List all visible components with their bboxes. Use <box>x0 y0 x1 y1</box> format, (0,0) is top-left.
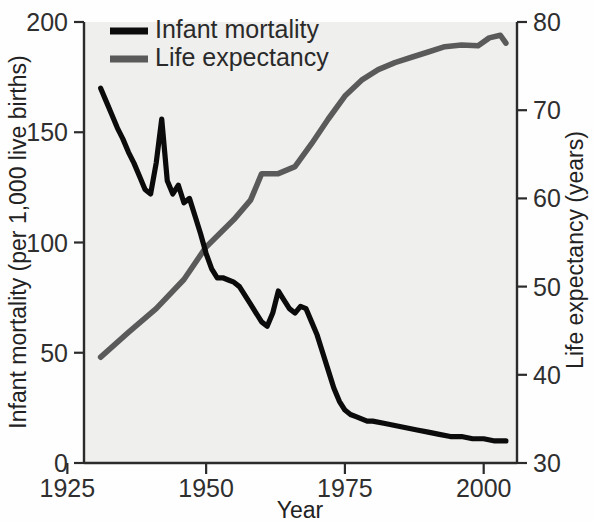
right-axis-tick-label: 60 <box>533 184 561 212</box>
left-axis-tick-label: 150 <box>26 118 68 146</box>
right-axis-tick-label: 70 <box>533 96 561 124</box>
left-axis-tick-labels: 050100150200 <box>26 8 68 477</box>
axis-right: 304050607080 <box>517 8 561 477</box>
legend-label-infant-mortality: Infant mortality <box>155 15 319 43</box>
right-axis-tick-labels: 304050607080 <box>533 8 561 477</box>
y-axis-right-title: Life expectancy (years) <box>562 131 588 369</box>
x-axis-title: Year <box>277 497 324 522</box>
chart-figure: 050100150200 304050607080 19251950197520… <box>0 0 594 522</box>
left-axis-tick-label: 200 <box>26 8 68 36</box>
right-axis-tick-label: 50 <box>533 273 561 301</box>
bottom-axis-ticks <box>67 463 483 474</box>
legend: Infant mortality Life expectancy <box>110 15 329 71</box>
bottom-axis-tick-labels: 1925195019752000 <box>40 474 512 502</box>
bottom-axis-tick-label: 1975 <box>317 474 373 502</box>
data-series-layer <box>101 35 506 441</box>
left-axis-tick-label: 100 <box>26 229 68 257</box>
left-axis-ticks <box>74 22 84 463</box>
right-axis-tick-label: 40 <box>533 361 561 389</box>
bottom-axis-tick-label: 1950 <box>178 474 234 502</box>
right-axis-tick-label: 30 <box>533 449 561 477</box>
axis-left: 050100150200 <box>26 8 84 477</box>
left-axis-tick-label: 50 <box>40 339 68 367</box>
series-line-infant-mortality <box>101 88 506 441</box>
legend-label-life-expectancy: Life expectancy <box>155 43 329 71</box>
y-axis-left-title: Infant mortality (per 1,000 live births) <box>5 55 31 428</box>
chart-svg: 050100150200 304050607080 19251950197520… <box>0 0 594 522</box>
bottom-axis-tick-label: 1925 <box>40 474 96 502</box>
left-axis-tick-label: 0 <box>54 449 68 477</box>
right-axis-tick-label: 80 <box>533 8 561 36</box>
bottom-axis-tick-label: 2000 <box>456 474 512 502</box>
right-axis-ticks <box>517 22 527 463</box>
